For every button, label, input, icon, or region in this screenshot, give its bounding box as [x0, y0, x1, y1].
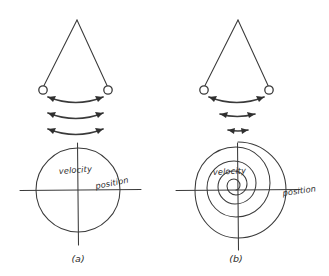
pendulum-bob-right	[104, 86, 112, 94]
panel-a-pendulum	[39, 20, 112, 135]
pendulum-bob-left	[200, 86, 208, 94]
figure-root: velocity position (a)	[0, 0, 329, 276]
panel-caption-a: (a)	[71, 253, 84, 264]
panel-a: velocity position (a)	[20, 20, 141, 264]
panel-b-phase-plot: velocity position	[176, 142, 317, 250]
pendulum-bob-right	[265, 86, 273, 94]
swing-arrow-2	[48, 112, 103, 119]
swing-arrow-1	[209, 96, 264, 103]
swing-arrow-1	[48, 96, 103, 103]
y-axis	[78, 143, 79, 245]
pendulum-string-right	[238, 20, 269, 87]
panel-b-pendulum	[200, 20, 273, 134]
velocity-axis-label: velocity	[58, 164, 92, 176]
pendulum-string-left	[44, 20, 78, 87]
pendulum-phase-diagram: velocity position (a)	[0, 0, 329, 276]
pendulum-string-right	[77, 20, 108, 87]
panel-b: velocity position (b)	[176, 20, 317, 264]
velocity-axis-label: velocity	[213, 165, 247, 177]
swing-arrow-3	[228, 128, 248, 134]
pendulum-string-left	[205, 20, 239, 87]
x-axis	[20, 190, 141, 191]
position-axis-label: position	[93, 175, 129, 191]
panel-a-phase-plot: velocity position	[20, 143, 141, 245]
panel-caption-b: (b)	[229, 253, 242, 264]
y-axis	[238, 143, 239, 250]
swing-arrow-3	[48, 128, 103, 135]
swing-arrow-2	[220, 112, 255, 118]
pendulum-bob-left	[39, 86, 47, 94]
